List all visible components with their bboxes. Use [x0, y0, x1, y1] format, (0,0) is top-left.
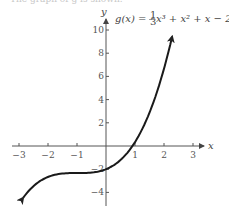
svg-text:4: 4: [98, 95, 104, 105]
svg-text:g(x) =: g(x) =: [115, 13, 146, 24]
y-axis-label: y: [100, 6, 107, 17]
function-graph: x y −3−2−1123 108642−2−4 g(x) = 1 3 x³ +…: [0, 0, 229, 217]
svg-text:3: 3: [190, 150, 196, 160]
svg-text:−4: −4: [91, 187, 105, 197]
svg-text:2: 2: [98, 118, 104, 128]
svg-text:x³ + x² + x − 2: x³ + x² + x − 2: [156, 13, 229, 24]
x-axis-label: x: [208, 140, 214, 151]
svg-text:1: 1: [132, 150, 138, 160]
svg-text:−1: −1: [70, 150, 83, 160]
svg-text:−2: −2: [41, 150, 54, 160]
svg-text:6: 6: [98, 71, 104, 81]
svg-text:8: 8: [98, 48, 104, 58]
svg-text:10: 10: [93, 25, 105, 35]
function-formula: g(x) = 1 3 x³ + x² + x − 2: [115, 9, 229, 27]
svg-text:2: 2: [161, 150, 167, 160]
svg-text:−3: −3: [12, 150, 26, 160]
